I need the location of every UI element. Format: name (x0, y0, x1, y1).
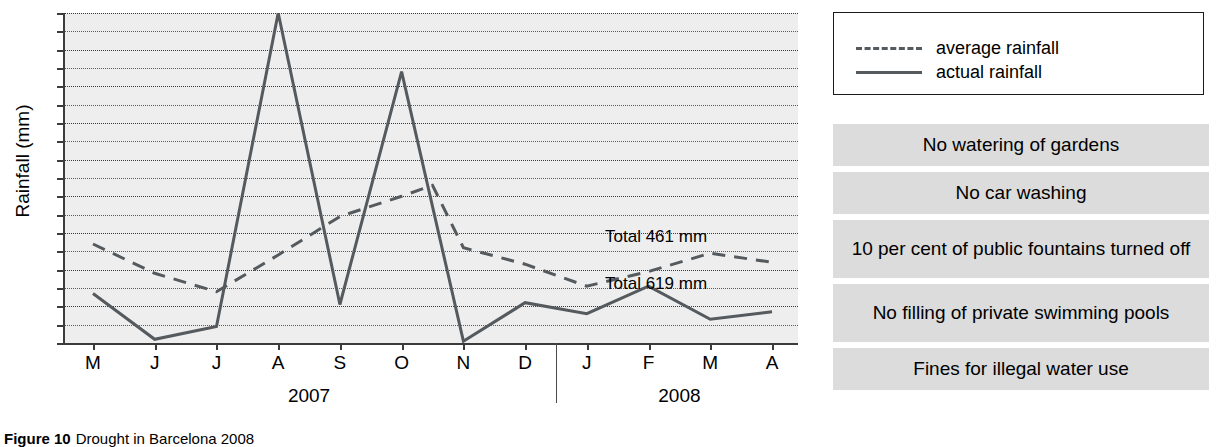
x-axis-tick-mark (216, 343, 218, 350)
plot-area: MJJASONDJFMA20072008 Total 461 mmTotal 6… (63, 13, 798, 345)
restriction-item: No filling of private swimming pools (833, 284, 1209, 342)
total-annotation: Total 461 mm (605, 227, 707, 247)
x-axis-month-label: D (505, 352, 545, 374)
year-label-2008: 2008 (599, 385, 759, 407)
x-axis-month-label: A (258, 352, 298, 374)
x-axis-month-label: F (629, 352, 669, 374)
restriction-item: No car washing (833, 172, 1209, 214)
legend-swatch-dashed (856, 41, 922, 55)
x-axis-month-label: S (320, 352, 360, 374)
legend-item: actual rainfall (856, 61, 1042, 83)
figure-caption-text: Drought in Barcelona 2008 (76, 430, 254, 447)
year-label-2007: 2007 (229, 385, 389, 407)
x-axis-month-label: J (567, 352, 607, 374)
x-axis-month-label: O (382, 352, 422, 374)
legend-label: actual rainfall (936, 62, 1042, 83)
x-axis-tick-mark (525, 343, 527, 350)
x-axis-month-label: J (196, 352, 236, 374)
y-axis-label: Rainfall (mm) (12, 66, 34, 256)
x-axis-tick-mark (278, 343, 280, 350)
x-axis-tick-mark (772, 343, 774, 350)
year-divider (556, 343, 557, 403)
water-restrictions-list: No watering of gardensNo car washing10 p… (833, 124, 1209, 396)
x-axis-month-label: J (135, 352, 175, 374)
total-annotation: Total 619 mm (605, 274, 707, 294)
figure-caption: Figure 10Drought in Barcelona 2008 (4, 430, 254, 447)
x-axis-tick-mark (710, 343, 712, 350)
x-axis-tick-mark (463, 343, 465, 350)
legend-swatch-solid (856, 65, 922, 79)
x-axis-month-label: M (690, 352, 730, 374)
legend-item: average rainfall (856, 37, 1059, 59)
rainfall-chart: Rainfall (mm) 18017016015014013012011010… (0, 0, 812, 447)
x-axis-tick-mark (155, 343, 157, 350)
restriction-item: No watering of gardens (833, 124, 1209, 166)
x-axis-month-label: A (752, 352, 792, 374)
chart-legend: average rainfallactual rainfall (833, 12, 1204, 95)
x-axis-tick-mark (649, 343, 651, 350)
figure-root: Rainfall (mm) 18017016015014013012011010… (0, 0, 1223, 447)
restriction-item: 10 per cent of public fountains turned o… (833, 220, 1209, 278)
x-axis-month-label: N (443, 352, 483, 374)
x-axis-tick-mark (93, 343, 95, 350)
x-axis-tick-mark (340, 343, 342, 350)
restriction-item: Fines for illegal water use (833, 348, 1209, 390)
figure-number: Figure 10 (4, 430, 71, 447)
legend-label: average rainfall (936, 38, 1059, 59)
x-axis-tick-mark (402, 343, 404, 350)
x-axis-tick-mark (587, 343, 589, 350)
x-axis-month-label: M (73, 352, 113, 374)
